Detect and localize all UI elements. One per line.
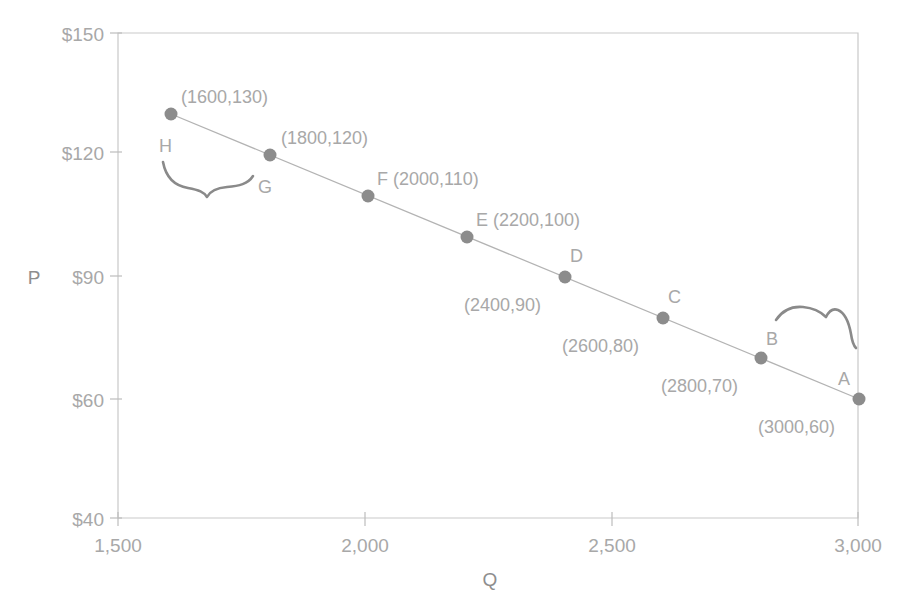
coord-label-h: (1600,130) (181, 87, 268, 107)
coord-label-f: F (2000,110) (377, 169, 479, 189)
point-label-g: G (258, 177, 272, 197)
point-label-c: C (668, 287, 681, 307)
x-tick-label-2500: 2,500 (588, 535, 636, 556)
coord-label-b: (2800,70) (661, 376, 738, 396)
x-tick-label-3000: 3,000 (834, 535, 882, 556)
y-axis-ticks (110, 33, 122, 518)
brace-right-icon (776, 307, 856, 348)
demand-curve-chart: $150 $120 $90 $60 $40 1,500 2,000 2,500 … (0, 0, 897, 601)
coord-label-d: (2400,90) (464, 295, 541, 315)
coord-label-c: (2600,80) (562, 336, 639, 356)
point-label-d: D (570, 246, 583, 266)
chart-canvas: $150 $120 $90 $60 $40 1,500 2,000 2,500 … (0, 0, 897, 601)
data-point-e (461, 231, 474, 244)
point-label-a: A (838, 369, 850, 389)
x-tick-label-1500: 1,500 (94, 535, 142, 556)
y-tick-label-40: $40 (72, 509, 104, 530)
point-label-b: B (766, 329, 778, 349)
data-point-h (165, 108, 178, 121)
data-point-f (362, 190, 375, 203)
data-point-d (559, 271, 572, 284)
y-tick-label-90: $90 (72, 267, 104, 288)
coord-label-e: E (2200,100) (476, 210, 580, 230)
x-axis-title: Q (483, 569, 498, 590)
point-label-h: H (159, 136, 172, 156)
y-tick-label-60: $60 (72, 390, 104, 411)
coord-label-g: (1800,120) (281, 128, 368, 148)
y-axis-title: P (28, 267, 41, 288)
data-point-a (853, 393, 866, 406)
coord-label-a: (3000,60) (758, 417, 835, 437)
x-axis-ticks (118, 512, 858, 526)
y-tick-label-120: $120 (62, 143, 104, 164)
data-point-c (657, 312, 670, 325)
data-point-g (264, 149, 277, 162)
brace-left-icon (163, 162, 253, 197)
y-tick-label-150: $150 (62, 24, 104, 45)
x-tick-label-2000: 2,000 (341, 535, 389, 556)
data-point-b (755, 352, 768, 365)
